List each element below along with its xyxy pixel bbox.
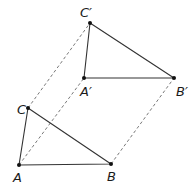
label-c: C: [17, 102, 27, 117]
dashed-segment-b-b2: [111, 78, 174, 164]
translation-diagram: ABCA′B′C′: [0, 0, 194, 188]
triangle-original: [19, 108, 111, 165]
label-a2: A′: [79, 84, 92, 99]
label-a: A: [12, 170, 22, 185]
label-c2: C′: [80, 5, 92, 20]
vertex-points: [17, 21, 176, 167]
translation-vectors: [19, 23, 174, 165]
label-b: B: [107, 169, 116, 184]
dashed-segment-a-a2: [19, 78, 84, 165]
point-a: [17, 163, 21, 167]
diagram-canvas: ABCA′B′C′: [0, 0, 194, 188]
point-c2: [88, 21, 92, 25]
vertex-labels: ABCA′B′C′: [12, 5, 188, 185]
point-c: [26, 106, 30, 110]
point-b2: [172, 76, 176, 80]
point-a2: [82, 76, 86, 80]
triangle-image: [84, 23, 174, 78]
label-b2: B′: [176, 84, 188, 99]
triangles: [19, 23, 174, 165]
point-b: [109, 162, 113, 166]
